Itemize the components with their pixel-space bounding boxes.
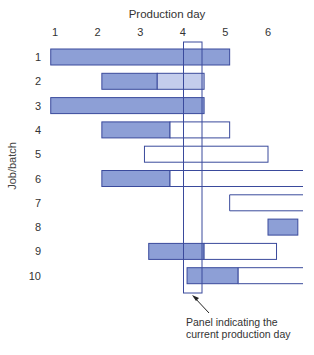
job-bar-segment <box>238 268 303 284</box>
y-tick-label: 5 <box>35 148 41 160</box>
y-tick-label: 7 <box>35 197 41 209</box>
annotation-line-2: current production day <box>186 328 290 340</box>
y-tick-label: 9 <box>35 245 41 257</box>
y-tick-label: 6 <box>35 173 41 185</box>
y-tick-label: 2 <box>35 75 41 87</box>
job-bar-segment <box>170 171 303 187</box>
job-bar-segment <box>204 243 276 259</box>
x-tick-label: 5 <box>222 26 228 38</box>
y-tick-label: 4 <box>35 124 41 136</box>
annotation-arrow-head-icon <box>192 295 199 301</box>
x-tick-label: 2 <box>95 26 101 38</box>
job-bar-segment <box>102 171 170 187</box>
panel-annotation: Panel indicating the current production … <box>186 316 290 340</box>
y-tick-label: 3 <box>35 100 41 112</box>
job-bar-segment <box>51 49 230 65</box>
job-bar-segment <box>268 219 298 235</box>
x-tick-label: 3 <box>137 26 143 38</box>
job-bar-segment <box>230 195 303 211</box>
annotation-line-1: Panel indicating the <box>186 316 290 328</box>
gantt-chart: 12345612345678910 <box>0 0 314 355</box>
job-bar-segment <box>51 98 204 114</box>
y-tick-label: 1 <box>35 51 41 63</box>
x-tick-label: 6 <box>265 26 271 38</box>
job-bar-segment <box>157 73 204 89</box>
job-bar-segment <box>102 73 157 89</box>
job-bar-segment <box>170 122 230 138</box>
y-tick-label: 8 <box>35 221 41 233</box>
x-tick-label: 4 <box>180 26 186 38</box>
job-bar-segment <box>149 243 204 259</box>
job-bar-segment <box>144 146 268 162</box>
x-tick-label: 1 <box>52 26 58 38</box>
y-tick-label: 10 <box>29 270 41 282</box>
job-bar-segment <box>102 122 170 138</box>
job-bar-segment <box>187 268 238 284</box>
